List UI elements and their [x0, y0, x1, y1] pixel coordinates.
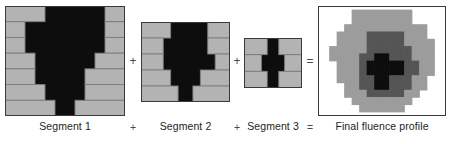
fluence-cell-level-2: [367, 46, 375, 54]
leaf-right-row-1: [208, 38, 230, 54]
fluence-cell-level-2: [374, 90, 382, 98]
fluence-cell-level-1: [359, 32, 367, 40]
fluence-cell-level-1: [397, 10, 405, 18]
fluence-cell-level-2: [389, 32, 397, 40]
fluence-cell-level-2: [404, 46, 412, 54]
fluence-cell-level-1: [337, 46, 345, 54]
fluence-cell-level-2: [367, 39, 375, 47]
fluence-cell-level-1: [404, 97, 412, 105]
leaf-right-row-0: [105, 6, 125, 22]
leaf-left-row-4: [141, 86, 178, 102]
imrt-segment-decomposition-figure: + + = Segment 1 + Segment 2 + Segment 3 …: [0, 0, 452, 144]
fluence-cell-level-1: [412, 32, 420, 40]
fluence-cell-level-2: [367, 90, 375, 98]
fluence-cell-level-1: [427, 61, 435, 69]
panel-segment-1: [5, 6, 125, 116]
fluence-cell-level-1: [419, 24, 427, 32]
fluence-cell-level-1: [359, 90, 367, 98]
fluence-cell-level-2: [397, 39, 405, 47]
fluence-cell-level-2: [367, 32, 375, 40]
leaf-right-row-6: [75, 100, 125, 116]
fluence-cell-level-1: [397, 97, 405, 105]
fluence-cell-level-1: [382, 97, 390, 105]
fluence-cell-level-3: [389, 61, 397, 69]
leaf-right-row-3: [200, 70, 230, 86]
fluence-cell-level-2: [404, 83, 412, 91]
fluence-cell-level-1: [397, 104, 405, 112]
fluence-cell-level-1: [427, 39, 435, 47]
fluence-cell-level-1: [337, 39, 345, 47]
fluence-cell-level-1: [389, 97, 397, 105]
fluence-cell-level-1: [404, 17, 412, 25]
fluence-cell-level-1: [412, 39, 420, 47]
fluence-cell-level-2: [389, 83, 397, 91]
fluence-cell-level-1: [374, 104, 382, 112]
fluence-cell-level-1: [404, 24, 412, 32]
fluence-cell-level-1: [404, 10, 412, 18]
fluence-cell-level-1: [344, 83, 352, 91]
plus-operator-2: +: [230, 55, 244, 67]
fluence-cell-level-1: [344, 68, 352, 76]
panel-final-fluence-profile: [318, 6, 446, 116]
fluence-cell-level-1: [412, 75, 420, 83]
fluence-cell-level-1: [337, 75, 345, 83]
fluence-cell-level-3: [374, 68, 382, 76]
fluence-cell-level-2: [389, 90, 397, 98]
leaf-left-row-1: [141, 38, 163, 54]
fluence-cell-level-1: [352, 53, 360, 61]
fluence-cell-level-1: [374, 24, 382, 32]
fluence-cell-level-1: [344, 61, 352, 69]
fluence-cell-level-2: [359, 61, 367, 69]
leaf-left-row-1: [5, 22, 25, 38]
caption-segment-1: Segment 1: [20, 120, 110, 132]
fluence-cell-level-2: [389, 39, 397, 47]
fluence-cell-level-1: [427, 53, 435, 61]
fluence-cell-level-1: [344, 24, 352, 32]
fluence-cell-level-1: [359, 46, 367, 54]
fluence-cell-level-2: [359, 53, 367, 61]
fluence-cell-level-1: [419, 46, 427, 54]
fluence-cell-level-3: [382, 83, 390, 91]
fluence-cell-level-1: [412, 90, 420, 98]
fluence-cell-level-1: [419, 32, 427, 40]
fluence-cell-level-3: [389, 68, 397, 76]
leaf-left-row-1: [244, 55, 261, 72]
fluence-cell-level-1: [419, 53, 427, 61]
segment-2-graphic: [141, 22, 230, 102]
fluence-cell-level-2: [397, 53, 405, 61]
fluence-cell-level-2: [359, 68, 367, 76]
leaf-left-row-0: [5, 6, 45, 22]
fluence-cell-level-1: [352, 97, 360, 105]
fluence-cell-level-1: [352, 90, 360, 98]
leaf-right-row-2: [105, 37, 125, 53]
fluence-cell-level-2: [374, 32, 382, 40]
caption-final-fluence-profile: Final fluence profile: [318, 120, 446, 132]
fluence-cell-level-1: [389, 17, 397, 25]
caption-equals: =: [300, 121, 320, 133]
fluence-cell-level-1: [344, 75, 352, 83]
fluence-cell-level-1: [404, 90, 412, 98]
fluence-cell-level-1: [352, 10, 360, 18]
fluence-cell-level-1: [412, 53, 420, 61]
fluence-cell-level-1: [359, 97, 367, 105]
leaf-right-row-1: [105, 22, 125, 38]
fluence-cell-level-3: [374, 75, 382, 83]
fluence-cell-level-3: [382, 75, 390, 83]
fluence-cell-level-1: [397, 24, 405, 32]
fluence-cell-level-1: [397, 17, 405, 25]
fluence-cell-level-2: [412, 68, 420, 76]
segment-1-graphic: [5, 6, 125, 116]
fluence-cell-level-1: [337, 32, 345, 40]
fluence-cell-level-2: [404, 53, 412, 61]
fluence-cell-level-2: [382, 32, 390, 40]
equals-operator: =: [303, 55, 317, 67]
fluence-cell-level-1: [404, 32, 412, 40]
leaf-left-row-5: [5, 85, 45, 101]
fluence-cell-level-2: [367, 83, 375, 91]
leaf-right-row-0: [208, 22, 230, 38]
fluence-cell-level-1: [419, 61, 427, 69]
fluence-cell-level-3: [397, 68, 405, 76]
fluence-cell-level-1: [382, 10, 390, 18]
fluence-cell-level-1: [352, 24, 360, 32]
leaf-left-row-2: [244, 71, 267, 88]
